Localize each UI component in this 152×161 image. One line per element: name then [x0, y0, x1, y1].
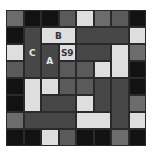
block[interactable] [111, 44, 129, 78]
block[interactable] [59, 61, 77, 78]
block[interactable] [24, 129, 42, 146]
block[interactable] [111, 129, 129, 146]
block[interactable] [41, 78, 59, 95]
block[interactable] [129, 10, 147, 27]
block[interactable] [76, 129, 94, 146]
block-label: S9 [61, 48, 74, 58]
block[interactable] [41, 129, 59, 146]
block-label: B [55, 31, 62, 41]
block[interactable] [76, 44, 111, 61]
block[interactable] [59, 10, 77, 27]
block-b[interactable]: B [41, 27, 76, 44]
block[interactable] [129, 112, 147, 129]
block[interactable] [129, 95, 147, 112]
block[interactable] [94, 61, 112, 78]
block[interactable] [59, 78, 77, 95]
puzzle-board: CBAS9 [6, 10, 146, 146]
block[interactable] [6, 27, 24, 44]
block[interactable] [41, 10, 59, 27]
block[interactable] [129, 44, 147, 61]
block[interactable] [59, 129, 77, 146]
block[interactable] [76, 95, 94, 112]
block-a[interactable]: A [41, 44, 59, 78]
block[interactable] [76, 78, 94, 95]
block[interactable] [76, 10, 94, 27]
block-label: C [29, 48, 36, 58]
block[interactable] [129, 27, 147, 44]
block[interactable] [94, 10, 112, 27]
block[interactable] [76, 61, 94, 78]
block[interactable] [129, 78, 147, 95]
block[interactable] [76, 27, 129, 44]
block[interactable] [41, 95, 76, 112]
block[interactable] [24, 78, 42, 112]
block[interactable] [24, 112, 77, 129]
block-label: A [46, 56, 53, 66]
block[interactable] [6, 112, 24, 129]
block[interactable] [94, 78, 112, 112]
block[interactable] [6, 10, 24, 27]
block[interactable] [111, 78, 129, 129]
block[interactable] [6, 95, 24, 112]
block[interactable] [129, 129, 147, 146]
block[interactable] [24, 10, 42, 27]
block[interactable] [129, 61, 147, 78]
block[interactable] [111, 10, 129, 27]
block[interactable] [94, 129, 112, 146]
block-c[interactable]: C [24, 27, 42, 78]
block[interactable] [6, 44, 24, 61]
block[interactable] [6, 78, 24, 95]
block[interactable] [6, 129, 24, 146]
block-s9[interactable]: S9 [59, 44, 77, 61]
block[interactable] [6, 61, 24, 78]
block[interactable] [76, 112, 111, 129]
